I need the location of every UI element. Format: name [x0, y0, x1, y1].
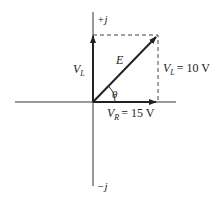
theta-label: θ: [112, 88, 118, 100]
vl-label: VL: [73, 62, 85, 78]
e-phasor-arrow: [93, 37, 156, 102]
phasor-diagram: +j −j VL E θ VR= 15 V VL= 10 V: [0, 0, 213, 198]
negative-imag-label: −j: [97, 180, 107, 192]
vr-label: VR= 15 V: [107, 106, 155, 122]
e-label: E: [115, 53, 124, 67]
vl-projection-label: VL= 10 V: [163, 61, 210, 77]
positive-imag-label: +j: [97, 13, 107, 25]
